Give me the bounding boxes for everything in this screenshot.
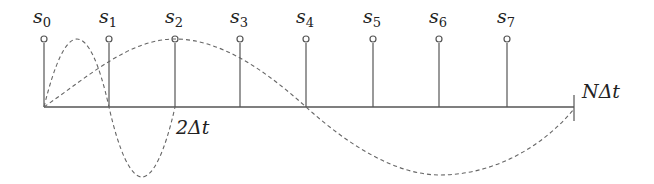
svg-text:s3: s3 [230,5,248,30]
svg-text:s5: s5 [363,5,381,30]
sampling-diagram: s0 s1 s2 s3 s4 s5 s6 s7 2Δt NΔt [0,0,654,184]
sample-labels: s0 s1 s2 s3 s4 s5 s6 s7 [33,5,515,30]
period-label: 2Δt [175,116,210,138]
axis-end-label: NΔt [581,80,620,102]
svg-text:s6: s6 [429,5,447,30]
svg-text:s2: s2 [165,5,183,30]
sample-stems [41,36,510,107]
svg-text:s4: s4 [296,5,314,30]
svg-text:s7: s7 [497,5,515,30]
svg-text:s1: s1 [99,5,117,30]
svg-text:s0: s0 [33,5,51,30]
